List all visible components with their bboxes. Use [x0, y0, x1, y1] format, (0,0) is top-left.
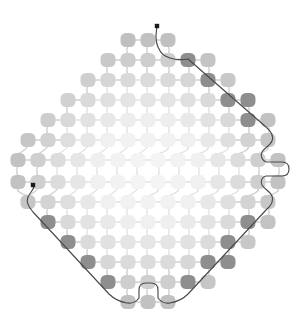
lattice-link [248, 126, 249, 134]
lattice-node [141, 255, 156, 269]
lattice-link [97, 166, 98, 176]
lattice-node [111, 153, 126, 167]
lattice-node [41, 133, 56, 147]
lattice-link [98, 146, 108, 154]
lattice-link [218, 146, 228, 154]
lattice-node [71, 175, 86, 189]
lattice-link [147, 288, 148, 296]
lattice-node [61, 113, 76, 127]
lattice-node [101, 255, 116, 269]
lattice-node [71, 153, 86, 167]
lattice-node [181, 195, 196, 209]
lattice-link [87, 248, 88, 256]
lattice-node [121, 113, 136, 127]
lattice-link [87, 126, 88, 134]
lattice-link [88, 188, 98, 196]
lattice-node [141, 113, 156, 127]
lattice-link [18, 146, 28, 154]
lattice-node [151, 153, 166, 167]
lattice-link [168, 228, 169, 236]
lattice-node-highlighted [201, 73, 216, 87]
lattice-node [141, 295, 156, 309]
lattice-link [127, 248, 128, 256]
lattice-link [188, 106, 189, 114]
lattice-link [107, 208, 108, 216]
lattice-link [107, 248, 108, 256]
lattice-link [178, 146, 188, 154]
lattice-node [101, 93, 116, 107]
lattice-link [248, 188, 258, 196]
lattice-node [61, 215, 76, 229]
lattice-node [191, 175, 206, 189]
lattice-link [127, 288, 128, 296]
lattice-node-highlighted [241, 215, 256, 229]
lattice-node [131, 153, 146, 167]
lattice-link [37, 166, 38, 176]
trace-endpoint-marker [155, 24, 159, 28]
lattice-node [41, 113, 56, 127]
lattice-node [171, 175, 186, 189]
lattice-link [57, 166, 58, 176]
lattice-link [67, 126, 68, 134]
lattice-node-highlighted [61, 235, 76, 249]
lattice-node [201, 235, 216, 249]
lattice-node [111, 175, 126, 189]
lattice-node [161, 133, 176, 147]
lattice-link [147, 268, 148, 276]
lattice-node [101, 73, 116, 87]
lattice-node [241, 235, 256, 249]
lattice-link [168, 208, 169, 216]
lattice-node [11, 175, 26, 189]
lattice-node [241, 195, 256, 209]
lattice-link [108, 188, 118, 196]
lattice-link [127, 46, 128, 54]
lattice-link [168, 248, 169, 256]
lattice-link [228, 86, 229, 94]
lattice-link [168, 86, 169, 94]
lattice-node [211, 175, 226, 189]
lattice-link [188, 86, 189, 94]
lattice-node [141, 133, 156, 147]
lattice-link [188, 248, 189, 256]
lattice-node [141, 73, 156, 87]
lattice-node [221, 113, 236, 127]
lattice-node [181, 255, 196, 269]
lattice-node [121, 33, 136, 47]
lattice-node [141, 33, 156, 47]
lattice-link [48, 188, 58, 196]
lattice-link [208, 86, 209, 94]
lattice-node [141, 53, 156, 67]
lattice-node [181, 235, 196, 249]
lattice-node [241, 133, 256, 147]
lattice-node [271, 175, 286, 189]
lattice-link [188, 228, 189, 236]
lattice-link [278, 166, 279, 176]
lattice-link [47, 126, 48, 134]
lattice-node [221, 133, 236, 147]
lattice-link [188, 208, 189, 216]
lattice-node [201, 275, 216, 289]
lattice-node-highlighted [221, 235, 236, 249]
figure-root: Lattice graph with traced boundary path [0, 0, 297, 328]
lattice-link [147, 86, 148, 94]
lattice-node [161, 255, 176, 269]
lattice-link [208, 126, 209, 134]
lattice-node [101, 195, 116, 209]
lattice-link [188, 188, 198, 196]
lattice-link [208, 66, 209, 74]
lattice-link [87, 208, 88, 216]
lattice-node [171, 153, 186, 167]
lattice-node [201, 113, 216, 127]
lattice-link [208, 228, 209, 236]
lattice-link [188, 66, 189, 74]
lattice-link [78, 146, 88, 154]
lattice-diagram [0, 0, 297, 328]
lattice-link [127, 66, 128, 74]
lattice-link [168, 268, 169, 276]
lattice-node [221, 215, 236, 229]
lattice-node [161, 215, 176, 229]
lattice-node [81, 235, 96, 249]
lattice-node [121, 53, 136, 67]
lattice-link [188, 126, 189, 134]
lattice-node [131, 175, 146, 189]
